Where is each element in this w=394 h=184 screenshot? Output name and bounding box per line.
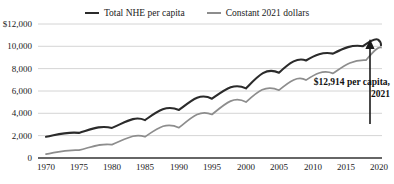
- series-line-constant-dollars: [46, 47, 381, 154]
- y-tick-12000: $12,000: [3, 20, 32, 29]
- value-callout-annotation: $12,914 per capita, 2021: [240, 76, 390, 100]
- legend-swatch-total-nhe: [85, 12, 99, 15]
- y-tick-2000: 2,000: [12, 131, 32, 140]
- x-tick-1975: 1975: [70, 162, 88, 172]
- legend-label-total-nhe: Total NHE per capita: [104, 8, 185, 18]
- legend-swatch-constant-dollars: [207, 12, 221, 15]
- x-tick-2020: 2020: [370, 162, 388, 172]
- x-tick-2005: 2005: [270, 162, 288, 172]
- annotation-line-2: 2021: [240, 88, 390, 100]
- x-tick-1970: 1970: [37, 162, 55, 172]
- y-tick-4000: 4,000: [12, 109, 32, 118]
- annotation-line-1: $12,914 per capita,: [240, 76, 390, 88]
- x-tick-1990: 1990: [170, 162, 188, 172]
- legend-label-constant-dollars: Constant 2021 dollars: [226, 8, 309, 18]
- x-tick-2015: 2015: [337, 162, 355, 172]
- legend-item-total-nhe: Total NHE per capita: [85, 8, 185, 18]
- x-axis: 1970 1975 1980 1985 1990 1995 2000 2005 …: [38, 162, 382, 176]
- y-tick-10000: 10,000: [7, 42, 32, 51]
- nhe-per-capita-chart: Total NHE per capita Constant 2021 dolla…: [0, 0, 394, 184]
- x-tick-1985: 1985: [136, 162, 154, 172]
- x-tick-2000: 2000: [237, 162, 255, 172]
- y-tick-6000: 6,000: [12, 87, 32, 96]
- legend-item-constant-dollars: Constant 2021 dollars: [207, 8, 309, 18]
- y-tick-0: 0: [28, 154, 33, 163]
- x-tick-2010: 2010: [304, 162, 322, 172]
- x-tick-1995: 1995: [203, 162, 221, 172]
- y-axis: $12,000 10,000 8,000 6,000 4,000 2,000 0: [0, 24, 36, 158]
- x-tick-1980: 1980: [103, 162, 121, 172]
- y-tick-8000: 8,000: [12, 64, 32, 73]
- chart-legend: Total NHE per capita Constant 2021 dolla…: [0, 6, 394, 20]
